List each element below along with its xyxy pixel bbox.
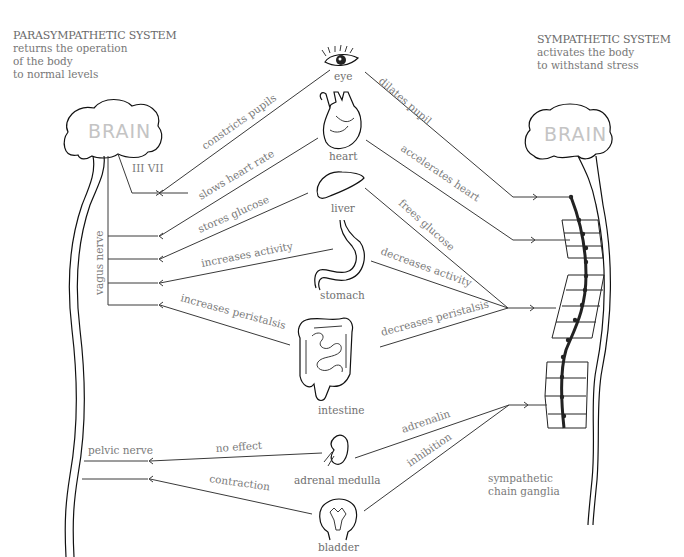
pelvic-nerve-label: pelvic nerve <box>88 444 153 456</box>
adrenal-symp-effect: adrenalin <box>400 407 452 435</box>
eye-icon <box>322 45 358 65</box>
liver-symp-effect: frees glucose <box>397 197 458 253</box>
stomach-icon <box>315 220 365 290</box>
liver-label: liver <box>331 202 356 214</box>
right-spinal-cord-outer <box>578 156 604 525</box>
intestine-label: intestine <box>318 404 365 416</box>
adrenal-medulla-label: adrenal medulla <box>294 474 381 486</box>
intestine-icon <box>298 318 352 401</box>
heart-icon <box>320 92 361 149</box>
bladder-para-effect: contraction <box>209 472 271 492</box>
sympathetic-connections <box>355 72 571 511</box>
stomach-label: stomach <box>320 289 365 301</box>
left-spinal-cord-inner <box>73 156 104 557</box>
ganglia-label-1: sympathetic <box>488 472 553 484</box>
right-brain-label: BRAIN <box>544 123 607 145</box>
intestine-symp-effect: decreases peristalsis <box>379 298 490 338</box>
ganglia-label-2: chain ganglia <box>488 485 560 497</box>
left-spinal-cord-outer <box>65 156 94 557</box>
ganglia-grid <box>545 220 604 428</box>
autonomic-nervous-system-diagram: BRAIN III VII vagus nerve pelvic nerve c… <box>0 0 684 557</box>
eye-label: eye <box>334 70 352 82</box>
right-brain-icon: BRAIN <box>525 104 612 159</box>
heart-label: heart <box>329 150 358 162</box>
intestine-para-effect: increases peristalsis <box>179 291 287 331</box>
liver-icon <box>317 172 364 199</box>
right-spinal-cord-inner <box>593 156 610 525</box>
bladder-label: bladder <box>318 541 360 553</box>
adrenal-para-effect: no effect <box>215 439 263 454</box>
liver-para-effect: stores glucose <box>196 193 271 235</box>
vagus-nerve-label: vagus nerve <box>93 230 105 296</box>
eye-para-effect: constricts pupils <box>199 91 278 151</box>
bladder-icon <box>320 499 357 540</box>
heart-symp-effect: accelerates heart <box>399 142 483 204</box>
eye-symp-effect: dilates pupil <box>377 74 435 127</box>
adrenal-medulla-icon <box>324 435 348 466</box>
left-brain-icon: BRAIN <box>64 100 161 159</box>
left-brain-label: BRAIN <box>88 120 151 142</box>
stomach-para-effect: increases activity <box>200 239 294 269</box>
cranial-nerves-label: III VII <box>132 162 164 174</box>
sympathetic-chain <box>562 197 586 428</box>
